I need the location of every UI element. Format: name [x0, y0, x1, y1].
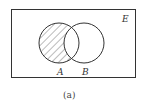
venn-diagram: E A B (a) — [0, 0, 145, 104]
set-a-label: A — [56, 67, 64, 77]
caption: (a) — [63, 90, 75, 100]
universe-label: E — [121, 14, 129, 24]
set-b-label: B — [81, 67, 89, 77]
